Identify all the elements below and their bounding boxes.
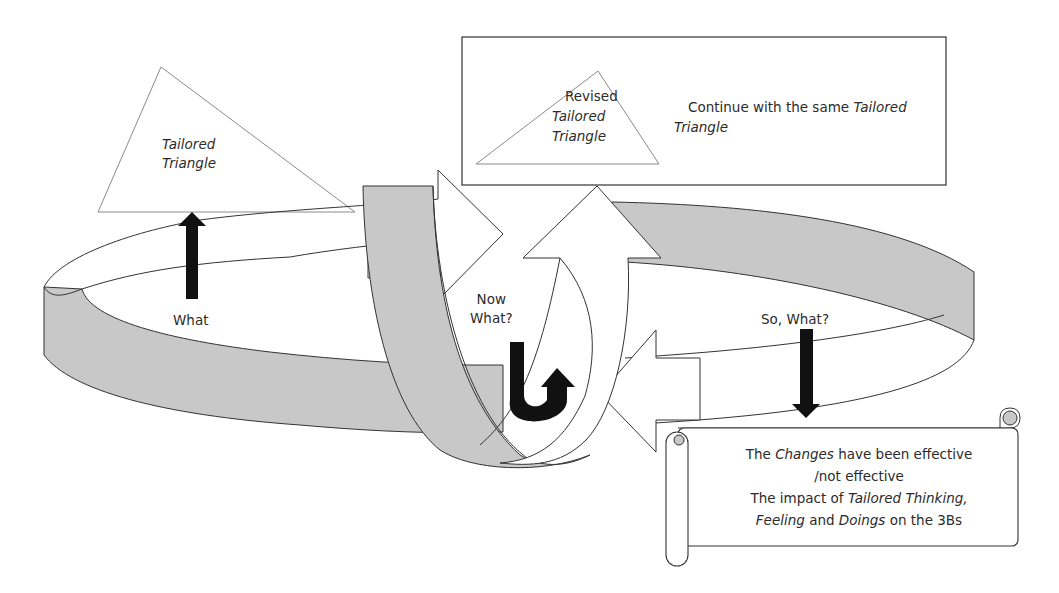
stage-now-what-label: Now What? — [470, 290, 513, 328]
scroll-text: The Changes have been effective /not eff… — [700, 443, 1018, 531]
label-line: Revised — [552, 86, 618, 106]
reflective-cycle-diagram: Tailored Triangle Revised Tailored Trian… — [0, 0, 1059, 593]
label-line: Tailored — [162, 135, 216, 154]
scroll-text-italic: Feeling — [756, 512, 805, 528]
scroll-text-italic: Doings — [839, 512, 886, 528]
label-line: What? — [470, 309, 513, 328]
revised-triangle-label: Revised Tailored Triangle — [552, 86, 618, 146]
stage-what-label: What — [173, 311, 208, 330]
label-line: Now — [470, 290, 513, 309]
tailored-triangle-label: Tailored Triangle — [162, 135, 216, 173]
continue-text: Continue with the same — [688, 99, 853, 115]
what-arrow-up-icon — [178, 212, 206, 299]
scroll-text-italic: Changes — [775, 446, 834, 462]
scroll-text-line: /not effective — [700, 465, 1018, 487]
stage-so-what-label: So, What? — [761, 310, 829, 329]
continue-note: Continue with the same Tailored Triangle — [674, 97, 907, 137]
so-what-arrow-down-icon — [792, 329, 820, 418]
scroll-text-part: The — [746, 446, 775, 462]
scroll-text-part: The impact of — [750, 490, 847, 506]
scroll-text-italic: Tailored Thinking, — [848, 490, 968, 506]
scroll-text-part: and — [805, 512, 839, 528]
continue-italic: Tailored — [853, 99, 906, 115]
tailored-triangle-shape — [98, 67, 355, 212]
continue-italic-2: Triangle — [674, 117, 907, 137]
now-what-u-turn-icon — [510, 342, 575, 421]
label-line: Tailored — [552, 106, 618, 126]
scroll-text-part: have been effective — [834, 446, 972, 462]
label-line: Triangle — [552, 126, 618, 146]
scroll-text-part: on the 3Bs — [885, 512, 962, 528]
label-line: Triangle — [162, 154, 216, 173]
